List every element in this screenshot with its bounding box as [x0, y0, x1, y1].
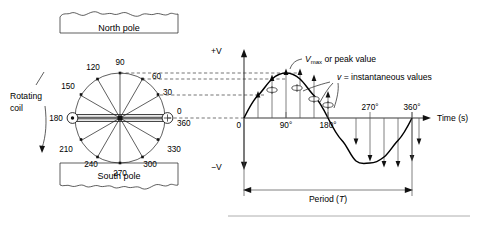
period-label-prefix: Period ( [309, 194, 339, 204]
coil-axle [117, 115, 122, 120]
graph-axes [241, 49, 431, 170]
instantaneous-values-annotation: v = instantaneous values [337, 72, 432, 82]
ordinate-lines-positive [256, 69, 331, 119]
conductor-into-page-icon [162, 113, 173, 124]
peak-value-leader-line [290, 59, 302, 69]
figure-page: North pole South pole [0, 0, 486, 228]
angle-label-0: 0 [177, 107, 182, 116]
rotating-coil-label-line2: coil [10, 103, 23, 113]
rotating-coil-callout [36, 72, 46, 153]
angle-label-150: 150 [61, 82, 75, 91]
north-pole-label: North pole [98, 23, 140, 33]
x-tick-label-270: 270° [362, 103, 379, 112]
peak-value-annotation: Vmax or peak value [305, 54, 376, 65]
angle-label-270: 270 [113, 169, 127, 178]
coil-marker-icon [309, 95, 319, 103]
angle-label-180: 180 [49, 114, 63, 123]
rotating-coil-label-line1: Rotating [10, 91, 42, 101]
coil-marker-icon [292, 84, 302, 92]
angle-label-330: 330 [167, 145, 181, 154]
graph-origin-label: 0 [236, 121, 241, 130]
x-tick-label-180: 180° [320, 121, 337, 130]
x-tick-label-90: 90° [280, 121, 292, 130]
angle-label-360: 360 [177, 119, 191, 128]
x-tick-label-360: 360° [404, 103, 421, 112]
y-axis-positive-label: +V [211, 46, 222, 56]
ordinate-lines-negative [354, 118, 422, 168]
period-label: Period (T) [309, 194, 347, 204]
rotating-coil-circle [67, 72, 173, 165]
ac-generator-figure: North pole South pole [0, 0, 486, 228]
peak-value-subscript: max [311, 59, 322, 65]
angle-label-240: 240 [84, 160, 98, 169]
angle-label-300: 300 [143, 160, 157, 169]
y-axis-negative-label: −V [211, 162, 222, 172]
coil-marker-icon [267, 86, 277, 94]
angle-label-30: 30 [163, 88, 173, 97]
x-axis-ticks [286, 112, 412, 118]
conductor-out-of-page-icon [67, 113, 78, 124]
x-axis-label: Time (s) [437, 113, 468, 123]
period-label-suffix: ) [344, 194, 347, 204]
angle-label-210: 210 [59, 145, 73, 154]
instantaneous-text: = instantaneous values [341, 72, 432, 82]
coil-marker-icon [323, 101, 333, 109]
peak-value-suffix: or peak value [322, 54, 376, 64]
angle-label-90: 90 [115, 58, 125, 67]
angle-label-120: 120 [86, 63, 100, 72]
